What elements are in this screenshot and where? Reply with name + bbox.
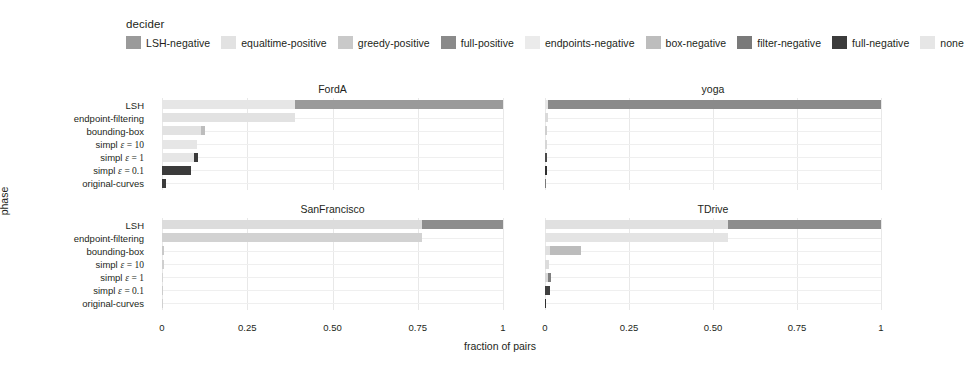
bar-segment[interactable] [550,246,581,255]
y-tick-label: endpoint-filtering [26,232,144,243]
bar-segment[interactable] [545,126,547,135]
x-tick-label: 0.75 [409,322,428,333]
bar-row[interactable] [545,260,881,269]
bar-segment[interactable] [162,246,164,255]
bar-row[interactable] [545,153,881,162]
bar-segment[interactable] [548,273,551,282]
bar-row[interactable] [162,113,503,122]
bar-row[interactable] [162,246,503,255]
legend-item[interactable]: box-negative [646,36,727,49]
bar-row[interactable] [162,100,503,109]
bar-segment[interactable] [545,113,548,122]
y-tick-label: LSH [26,219,144,230]
legend-item[interactable]: none [920,36,964,49]
x-tick-label: 0 [159,322,164,333]
x-tick-label: 1 [878,322,883,333]
subplot-panel: SanFrancisco [162,218,503,310]
bar-row[interactable] [162,233,503,242]
bar-segment[interactable] [162,260,164,269]
bar-row[interactable] [162,260,503,269]
subplot-title: SanFrancisco [162,203,503,215]
y-tick-label: simpl ε = 10 [26,259,144,270]
bar-segment[interactable] [548,100,881,109]
bar-segment[interactable] [545,153,547,162]
bar-row[interactable] [545,299,881,308]
bar-row[interactable] [162,166,503,175]
bar-segment[interactable] [162,286,163,295]
gridline-vertical [503,98,504,190]
legend-item-label: equaltime-positive [241,37,327,49]
legend-title: decider [126,18,916,30]
legend-item-label: full-negative [852,37,909,49]
bar-segment[interactable] [162,126,201,135]
legend-item[interactable]: endpoints-negative [525,36,635,49]
bar-segment[interactable] [422,220,503,229]
legend-swatch-icon [920,36,935,49]
bar-row[interactable] [162,140,503,149]
bar-segment[interactable] [545,299,546,308]
bar-row[interactable] [545,233,881,242]
bar-row[interactable] [545,126,881,135]
bar-segment[interactable] [545,260,549,269]
bar-row[interactable] [162,299,503,308]
legend-swatch-icon [338,36,353,49]
bar-row[interactable] [545,220,881,229]
x-tick-label: 0.25 [620,322,639,333]
legend-item[interactable]: greedy-positive [338,36,430,49]
bar-row[interactable] [545,113,881,122]
legend-item-label: none [940,37,964,49]
y-tick-label: simpl ε = 0.1 [26,285,144,296]
legend-item[interactable]: full-positive [441,36,514,49]
bar-segment[interactable] [201,126,205,135]
legend-item[interactable]: filter-negative [737,36,821,49]
bar-segment[interactable] [545,140,547,149]
bar-segment[interactable] [162,273,163,282]
bar-segment[interactable] [545,233,728,242]
bar-segment[interactable] [545,286,550,295]
bar-segment[interactable] [728,220,881,229]
bar-row[interactable] [545,166,881,175]
bar-row[interactable] [162,153,503,162]
bar-segment[interactable] [162,166,191,175]
legend-item[interactable]: equaltime-positive [221,36,327,49]
bar-segment[interactable] [545,220,728,229]
y-axis-label: phase [0,187,10,216]
bar-row[interactable] [545,179,881,188]
bar-row[interactable] [162,273,503,282]
bar-segment[interactable] [162,153,194,162]
bar-row[interactable] [162,286,503,295]
bar-segment[interactable] [162,299,163,308]
bar-segment[interactable] [545,166,547,175]
y-tick-label: simpl ε = 10 [26,139,144,150]
bar-segment[interactable] [545,179,546,188]
bar-segment[interactable] [162,220,422,229]
bar-row[interactable] [545,286,881,295]
bar-segment[interactable] [162,179,166,188]
plot-area [545,98,881,190]
bar-segment[interactable] [295,100,503,109]
gridline-vertical [881,98,882,190]
bar-row[interactable] [545,140,881,149]
bar-row[interactable] [545,273,881,282]
legend-swatch-icon [737,36,752,49]
legend-item[interactable]: full-negative [832,36,909,49]
bar-row[interactable] [545,100,881,109]
legend-items: LSH-negativeequaltime-positivegreedy-pos… [126,36,916,49]
x-tick-label: 1 [500,322,505,333]
bar-row[interactable] [162,126,503,135]
subplot-title: FordA [162,83,503,95]
y-tick-label: original-curves [26,298,144,309]
bar-segment[interactable] [162,113,295,122]
bar-segment[interactable] [162,140,197,149]
bar-segment[interactable] [162,233,422,242]
bar-segment[interactable] [162,100,295,109]
plot-area [162,218,503,310]
legend-item[interactable]: LSH-negative [126,36,210,49]
bar-row[interactable] [545,246,881,255]
subplot-title: yoga [545,83,881,95]
bar-row[interactable] [162,179,503,188]
bar-row[interactable] [162,220,503,229]
bar-segment[interactable] [194,153,197,162]
y-tick-label: bounding-box [26,125,144,136]
